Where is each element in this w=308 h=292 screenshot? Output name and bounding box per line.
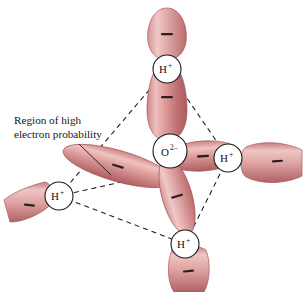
oxide-ion-charge: 2–	[170, 143, 178, 152]
hydrogen-ion-bottom-symbol: H	[177, 238, 185, 250]
hydrogen-ion-right: H +	[214, 144, 242, 172]
minus-sign-inner-top	[161, 96, 173, 98]
figure-canvas: O 2– H + H + H + H + Region of high elec…	[0, 0, 308, 292]
oxide-ion-symbol: O	[161, 146, 169, 158]
annotation-line-2: electron probability	[14, 128, 102, 140]
hydrogen-ion-top: H +	[153, 55, 181, 83]
minus-sign-outer-top	[161, 33, 173, 35]
hydrogen-ion-lower-left-symbol: H	[51, 190, 59, 202]
hydrogen-ion-lower-left-charge: +	[60, 188, 64, 197]
hydrogen-ion-lower-left-circle	[45, 182, 73, 210]
hydrogen-ion-right-circle	[214, 144, 242, 172]
hydrogen-ion-top-symbol: H	[159, 63, 167, 75]
hydrogen-ion-top-charge: +	[168, 61, 172, 70]
hydrogen-ion-top-circle	[153, 55, 181, 83]
lobe-outer-right	[241, 143, 302, 183]
hydrogen-ion-right-symbol: H	[220, 152, 228, 164]
oxide-ion: O 2–	[153, 134, 187, 168]
lobe-outer-top	[148, 8, 187, 60]
hydrogen-ion-bottom-charge: +	[186, 236, 190, 245]
lobe-outer-lower-left	[4, 182, 53, 222]
hydrogen-ion-right-charge: +	[229, 150, 233, 159]
hydrogen-ion-bottom-circle	[171, 230, 199, 258]
annotation-line-1: Region of high	[14, 114, 82, 126]
hydrogen-ion-lower-left: H +	[45, 182, 73, 210]
hydrogen-ion-bottom: H +	[171, 230, 199, 258]
